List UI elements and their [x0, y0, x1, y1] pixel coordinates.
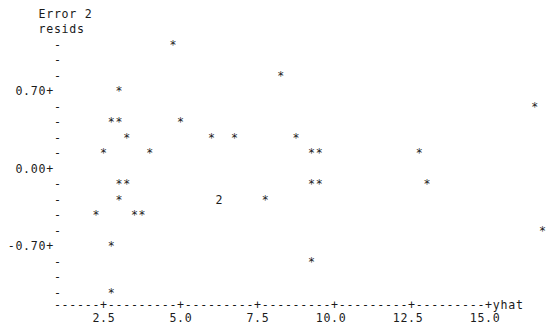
plot-title-line-2: resids — [0, 23, 85, 36]
axis-row-minor-tick: - — [0, 271, 62, 284]
axis-row-minor-tick: - * — [0, 70, 285, 83]
plot-title-line-1: Error 2 — [0, 8, 92, 21]
axis-row-minor-tick: - * * * * — [0, 132, 300, 145]
axis-row-minor-tick: - ** ** * — [0, 178, 431, 191]
axis-row-minor-tick: - ** * — [0, 116, 185, 129]
axis-row-minor-tick: - * — [0, 225, 547, 238]
axis-row-minor-tick: - * ** — [0, 209, 146, 222]
axis-row-minor-tick: - — [0, 54, 62, 67]
x-axis-tick-labels: 2.5 5.0 7.5 10.0 12.5 15.0 — [0, 312, 501, 325]
y-tick-row-neg-0-70: -0.70+ * — [0, 240, 116, 253]
axis-row-minor-tick: - * — [0, 101, 539, 114]
axis-row-minor-tick: - * — [0, 256, 316, 269]
y-tick-row-0-70: 0.70+ * — [0, 85, 123, 98]
axis-row-minor-tick: - * 2 * — [0, 194, 270, 207]
axis-row-minor-tick: - * — [0, 39, 177, 52]
axis-row-minor-tick: - * * ** * — [0, 147, 424, 160]
y-tick-row-0-00: 0.00+ — [0, 163, 54, 176]
